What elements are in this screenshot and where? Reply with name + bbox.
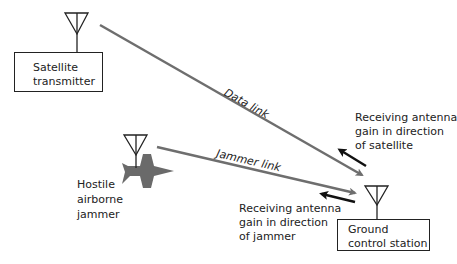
jammer-gain-line3: of jammer bbox=[239, 230, 296, 243]
jammer-gain-line2: gain in direction bbox=[239, 216, 328, 229]
ground-label-line2: control station bbox=[348, 237, 427, 250]
jammer-gain-arrow bbox=[322, 194, 355, 202]
ground-label-line1: Ground bbox=[348, 223, 388, 236]
satellite-gain-line2: gain in direction bbox=[355, 125, 444, 138]
jammer-label-line1: Hostile bbox=[77, 178, 115, 191]
aircraft-icon bbox=[122, 154, 174, 188]
satellite-transmitter-box: Satellite transmitter bbox=[14, 52, 103, 92]
ground-antenna-icon bbox=[365, 186, 388, 219]
satellite-label-line1: Satellite bbox=[33, 61, 78, 74]
jammer-label-line3: jammer bbox=[77, 208, 120, 221]
satellite-label-line2: transmitter bbox=[33, 75, 95, 88]
jammer-label-line2: airborne bbox=[77, 193, 123, 206]
satellite-gain-line1: Receiving antenna bbox=[355, 111, 457, 124]
ground-control-station-box: Ground control station bbox=[337, 219, 430, 251]
satellite-gain-line3: of satellite bbox=[355, 139, 413, 152]
satellite-antenna-icon bbox=[65, 13, 88, 52]
jammer-gain-line1: Receiving antenna bbox=[239, 202, 341, 215]
